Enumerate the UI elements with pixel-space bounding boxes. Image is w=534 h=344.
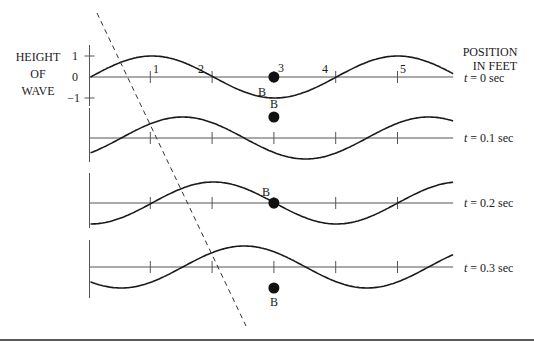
wave-row-t-0.3: Bt = 0.3 sec [90, 240, 514, 309]
crest-tracking-line [97, 13, 246, 326]
x-tick-label-4: 4 [322, 62, 328, 76]
point-b-label: B [270, 295, 278, 309]
point-b-label: B [258, 85, 266, 99]
wave-diagram: HEIGHT OF WAVE 1 0 −1 POSITION IN FEET 1… [0, 0, 534, 344]
y-tick-label-neg1: −1 [67, 91, 80, 105]
time-value: = 0 sec [467, 71, 504, 85]
x-tick-label-1: 1 [153, 62, 159, 76]
y-axis-title-line-3: WAVE [21, 84, 54, 98]
point-b-marker [268, 72, 279, 83]
point-b-label: B [270, 97, 278, 111]
time-label: t = 0.3 sec [464, 261, 513, 275]
y-tick-label-0: 0 [72, 70, 78, 84]
point-b-marker [268, 283, 279, 294]
wave-row-t-0.1: Bt = 0.1 sec [90, 97, 514, 162]
x-tick-label-5: 5 [400, 62, 406, 76]
time-label: t = 0.1 sec [464, 131, 513, 145]
x-tick-label-3: 3 [278, 61, 284, 75]
time-label: t = 0.2 sec [464, 196, 513, 210]
y-axis-title-line-1: HEIGHT [16, 50, 61, 64]
wave-row-t-0.2: Bt = 0.2 sec [90, 173, 514, 228]
y-tick-label-1: 1 [72, 49, 78, 63]
time-value: = 0.2 sec [467, 196, 513, 210]
wave-rows: Bt = 0 secBt = 0.1 secBt = 0.2 secBt = 0… [85, 45, 514, 309]
y-axis-title-line-2: OF [30, 67, 46, 81]
point-b-marker [268, 198, 279, 209]
x-axis-title-line-1: POSITION [463, 45, 518, 59]
time-value: = 0.1 sec [467, 131, 513, 145]
point-b-label: B [262, 185, 270, 199]
time-label: t = 0 sec [464, 71, 504, 85]
time-value: = 0.3 sec [467, 261, 513, 275]
wave-row-t-0: Bt = 0 sec [85, 45, 505, 106]
point-b-marker [268, 112, 279, 123]
